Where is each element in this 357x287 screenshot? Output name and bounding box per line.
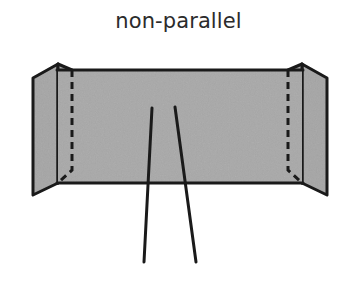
center-panel bbox=[57, 70, 303, 183]
left-flap-face bbox=[33, 64, 58, 195]
right-flap-face bbox=[302, 64, 327, 195]
figure-root: non-parallel bbox=[0, 0, 357, 287]
diagram-canvas bbox=[0, 0, 357, 287]
center-panel-face bbox=[58, 70, 302, 183]
